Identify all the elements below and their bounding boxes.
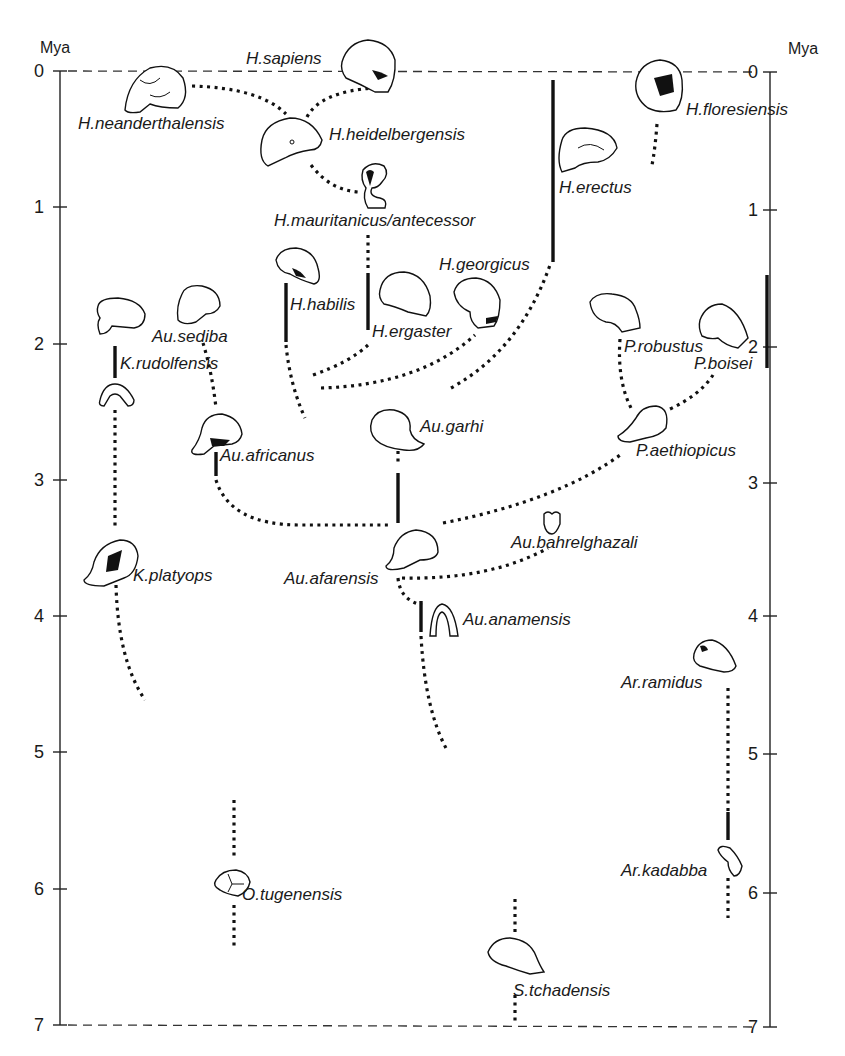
label-k-rudolfensis: K.rudolfensis (120, 355, 218, 372)
skull-p-aethiopicus (618, 406, 667, 442)
label-au-afarensis: Au.afarensis (284, 570, 379, 587)
skull-h-erectus (559, 128, 617, 172)
label-au-bahrelghazali: Au.bahrelghazali (511, 534, 638, 551)
label-ar-kadabba: Ar.kadabba (621, 862, 707, 879)
left-tick-2: 2 (34, 335, 44, 353)
skull-p-boisei (699, 304, 748, 348)
right-tick-0: 0 (748, 63, 758, 81)
jaw-k-rudolfensis (100, 384, 135, 406)
label-au-sediba: Au.sediba (152, 328, 228, 345)
label-h-heidelbergensis: H.heidelbergensis (329, 126, 465, 143)
phylogeny-diagram (0, 0, 845, 1056)
right-tick-3: 3 (748, 474, 758, 492)
skull-au-sediba (178, 286, 221, 324)
skull-h-mauritanicus (362, 164, 387, 208)
skull-ar-ramidus (694, 640, 736, 672)
label-h-ergaster: H.ergaster (372, 323, 451, 340)
skull-h-floresiensis (636, 60, 683, 112)
skull-h-ergaster (380, 272, 431, 316)
left-tick-1: 1 (34, 198, 44, 216)
label-h-floresiensis: H.floresiensis (686, 101, 788, 118)
right-tick-6: 6 (748, 884, 758, 902)
label-k-platyops: K.platyops (133, 567, 212, 584)
left-tick-4: 4 (34, 607, 44, 625)
label-p-robustus: P.robustus (624, 338, 703, 355)
skull-s-tchadensis (488, 938, 544, 974)
label-h-mauritanicus: H.mauritanicus/antecessor (274, 212, 475, 229)
left-tick-5: 5 (34, 743, 44, 761)
skull-h-heidelbergensis (261, 118, 322, 166)
fossil-ranges (115, 80, 767, 840)
skull-k-rudolfensis (97, 298, 145, 334)
jaw-au-anamensis (430, 604, 458, 636)
right-tick-1: 1 (748, 201, 758, 219)
right-axis (763, 72, 777, 1027)
label-h-georgicus: H.georgicus (439, 256, 530, 273)
label-h-sapiens: H.sapiens (246, 50, 322, 67)
label-p-boisei: P.boisei (694, 355, 752, 372)
label-h-habilis: H.habilis (290, 296, 355, 313)
label-au-anamensis: Au.anamensis (463, 611, 571, 628)
label-o-tugenensis: O.tugenensis (242, 886, 342, 903)
skull-au-afarensis (386, 530, 438, 570)
skull-h-sapiens (342, 40, 396, 92)
label-s-tchadensis: S.tchadensis (513, 982, 610, 999)
seven-mya-line (68, 1025, 758, 1027)
label-p-aethiopicus: P.aethiopicus (636, 442, 736, 459)
right-axis-unit: Mya (788, 41, 818, 57)
right-tick-4: 4 (748, 607, 758, 625)
left-tick-6: 6 (34, 880, 44, 898)
skull-h-neanderthalensis (125, 66, 186, 112)
left-axis (53, 71, 67, 1025)
skull-p-robustus (590, 294, 640, 332)
tooth-ar-kadabba (718, 846, 742, 876)
left-tick-3: 3 (34, 471, 44, 489)
label-ar-ramidus: Ar.ramidus (621, 674, 703, 691)
label-au-africanus: Au.africanus (220, 447, 315, 464)
label-h-erectus: H.erectus (559, 179, 632, 196)
left-axis-unit: Mya (40, 40, 70, 56)
right-tick-5: 5 (748, 745, 758, 763)
label-au-garhi: Au.garhi (420, 418, 483, 435)
skull-k-platyops (84, 540, 138, 586)
jaw-au-bahrelghazali (544, 512, 560, 534)
right-tick-7: 7 (748, 1018, 758, 1036)
skull-au-garhi (371, 410, 424, 451)
skull-h-habilis (276, 248, 319, 284)
left-tick-0: 0 (34, 62, 44, 80)
skull-h-georgicus (454, 278, 500, 328)
left-tick-7: 7 (34, 1016, 44, 1034)
label-h-neanderthalensis: H.neanderthalensis (78, 115, 224, 132)
